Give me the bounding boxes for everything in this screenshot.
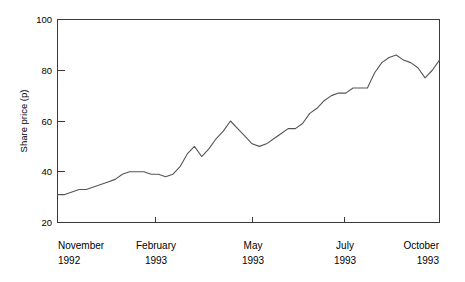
x-label-july-month: July [336, 240, 354, 251]
y-axis-ticks [58, 20, 65, 223]
y-axis-title: Share price (p) [18, 90, 29, 153]
x-label-july-year: 1993 [334, 255, 357, 266]
y-tick-label-20: 20 [41, 217, 52, 228]
x-label-november-month: November [58, 240, 105, 251]
x-label-may-month: May [244, 240, 263, 251]
x-axis-tick-labels: November 1992 February 1993 May 1993 Jul… [58, 240, 440, 266]
x-label-october-month: October [403, 240, 439, 251]
x-axis-ticks [156, 217, 345, 223]
plot-frame [58, 20, 440, 223]
x-label-may-year: 1993 [242, 255, 265, 266]
x-label-february-month: February [136, 240, 176, 251]
y-tick-label-60: 60 [41, 116, 52, 127]
y-axis-tick-labels: 100 80 60 40 20 [36, 14, 52, 228]
plot-border [58, 20, 440, 223]
chart-canvas: 100 80 60 40 20 Share price (p) November… [0, 0, 465, 282]
x-label-october-year: 1993 [417, 255, 440, 266]
share-price-chart: 100 80 60 40 20 Share price (p) November… [0, 0, 465, 282]
x-label-november-year: 1992 [58, 255, 81, 266]
y-tick-label-100: 100 [36, 14, 52, 25]
y-tick-label-80: 80 [41, 65, 52, 76]
share-price-line [58, 55, 440, 195]
y-tick-label-40: 40 [41, 166, 52, 177]
x-label-february-year: 1993 [145, 255, 168, 266]
